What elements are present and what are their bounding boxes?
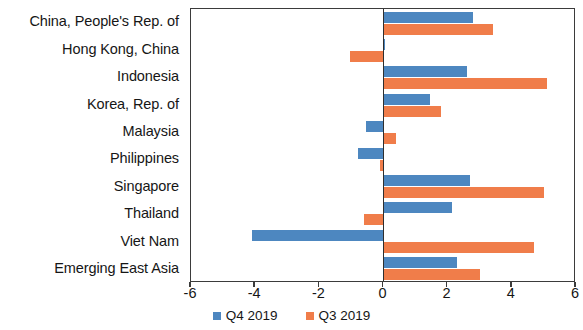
bar-q4-2019	[384, 12, 474, 23]
legend-label: Q3 2019	[319, 309, 371, 323]
x-tick-label: -2	[312, 286, 325, 301]
chart-legend: Q4 2019Q3 2019	[0, 309, 583, 323]
category-axis: China, People's Rep. ofHong Kong, ChinaI…	[0, 8, 186, 282]
bar-q4-2019	[384, 202, 453, 213]
legend-swatch-icon	[306, 312, 314, 320]
legend-item[interactable]: Q4 2019	[213, 309, 278, 323]
x-tick-label: -4	[248, 286, 261, 301]
bar-q3-2019	[384, 187, 544, 198]
x-tick-label: 0	[378, 286, 386, 301]
bar-q4-2019	[384, 257, 458, 268]
bar-q3-2019	[384, 242, 535, 253]
category-label: Malaysia	[0, 118, 186, 145]
category-label: Emerging East Asia	[0, 255, 186, 282]
bar-q3-2019	[350, 51, 384, 62]
bar-q3-2019	[384, 24, 493, 35]
bar-q4-2019	[384, 66, 467, 77]
zero-axis-line	[383, 9, 385, 281]
category-label: Viet Nam	[0, 227, 186, 254]
x-axis-tick-labels: -6-4-20246	[190, 286, 575, 306]
bar-q4-2019	[366, 121, 384, 132]
bar-q4-2019	[358, 148, 384, 159]
x-tick-label: 4	[507, 286, 515, 301]
bar-q4-2019	[384, 175, 471, 186]
legend-item[interactable]: Q3 2019	[306, 309, 371, 323]
category-label: Hong Kong, China	[0, 35, 186, 62]
category-label: Thailand	[0, 200, 186, 227]
bar-q3-2019	[384, 106, 442, 117]
bar-chart: China, People's Rep. ofHong Kong, ChinaI…	[0, 0, 583, 330]
category-label: Korea, Rep. of	[0, 90, 186, 117]
legend-swatch-icon	[213, 312, 221, 320]
x-tick-label: 6	[571, 286, 579, 301]
plot-area	[190, 8, 575, 282]
category-label: Philippines	[0, 145, 186, 172]
category-label: China, People's Rep. of	[0, 8, 186, 35]
x-tick-label: -6	[184, 286, 197, 301]
category-label: Indonesia	[0, 63, 186, 90]
legend-label: Q4 2019	[226, 309, 278, 323]
category-label: Singapore	[0, 172, 186, 199]
x-tick-label: 2	[443, 286, 451, 301]
bar-q3-2019	[384, 269, 480, 280]
bar-q3-2019	[364, 214, 383, 225]
bar-q4-2019	[252, 230, 384, 241]
bar-q3-2019	[384, 78, 548, 89]
bar-q3-2019	[384, 133, 397, 144]
bar-q4-2019	[384, 94, 431, 105]
